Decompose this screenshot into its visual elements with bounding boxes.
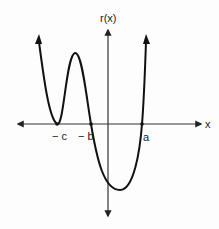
point-a — [140, 122, 144, 126]
label-a: a — [143, 131, 150, 143]
point-neg-b — [89, 122, 93, 126]
label-neg-b: − b — [78, 130, 94, 142]
y-axis-label: r(x) — [100, 12, 117, 24]
label-neg-c: − c — [52, 130, 67, 142]
x-axis-label: x — [205, 118, 211, 130]
curve-left-arrow-icon — [35, 34, 42, 44]
curve-right-arrow-icon — [143, 34, 150, 44]
point-neg-c — [55, 122, 59, 126]
graph-svg: r(x) x − c − b a — [0, 0, 219, 229]
polynomial-graph: r(x) x − c − b a — [0, 0, 219, 229]
function-curve — [39, 42, 146, 190]
